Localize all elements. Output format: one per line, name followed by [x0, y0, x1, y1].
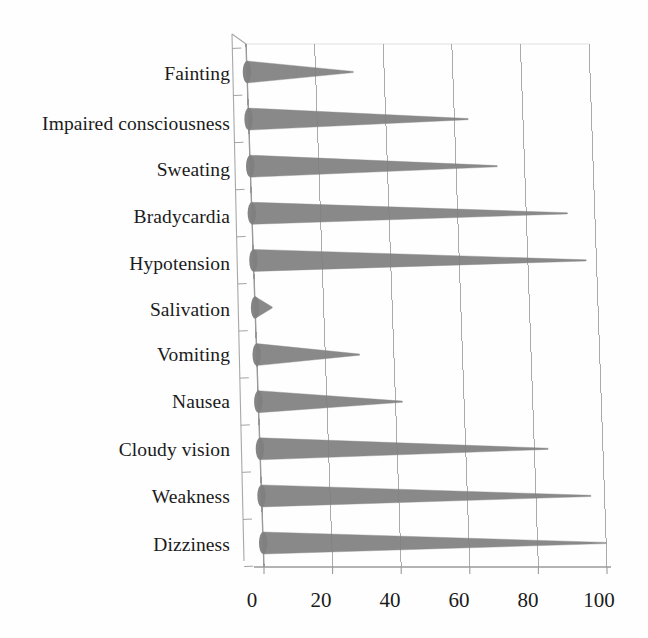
- category-axis-labels: Fainting Impaired consciousness Sweating…: [0, 0, 238, 638]
- xtick-label-100: 100: [583, 590, 615, 611]
- cone-bar-body: [262, 485, 591, 507]
- cone-bar-body: [249, 108, 469, 130]
- cone-bar: [248, 202, 568, 224]
- xtick-label-60: 60: [449, 590, 470, 611]
- cone-bar: [257, 485, 590, 507]
- category-label-hypotension: Hypotension: [129, 254, 230, 274]
- cone-bar-base-cap: [251, 297, 259, 319]
- axis-ticks: [232, 48, 607, 574]
- category-label-weakness: Weakness: [152, 487, 230, 507]
- cone-bar-chart: Fainting Impaired consciousness Sweating…: [0, 0, 648, 638]
- cone-bar-body: [252, 202, 568, 224]
- category-label-cloudy-vision: Cloudy vision: [119, 440, 230, 460]
- cone-bar-base-cap: [246, 155, 254, 177]
- cone-bar-base-cap: [252, 344, 260, 366]
- cone-bar: [254, 391, 402, 413]
- xtick-label-40: 40: [380, 590, 401, 611]
- category-label-dizziness: Dizziness: [153, 535, 230, 555]
- cone-bar-body: [260, 438, 548, 460]
- gridline-20: [315, 44, 333, 567]
- category-label-salivation: Salivation: [150, 300, 230, 320]
- category-label-impaired-consciousness: Impaired consciousness: [42, 114, 230, 134]
- cone-bar: [252, 344, 359, 366]
- cone-bar-base-cap: [257, 485, 265, 507]
- cone-bar-base-cap: [249, 249, 257, 271]
- axis-lines: [232, 34, 611, 567]
- gridline-60: [452, 44, 470, 567]
- cone-bar-base-cap: [243, 61, 251, 83]
- cone-bar: [243, 61, 354, 83]
- category-label-fainting: Fainting: [164, 64, 230, 84]
- category-label-sweating: Sweating: [157, 160, 230, 180]
- cone-bar-body: [257, 344, 360, 366]
- cone-bar-body: [255, 297, 272, 319]
- gridline-40: [383, 44, 401, 567]
- gridline-100: [589, 44, 607, 567]
- category-label-vomiting: Vomiting: [157, 345, 230, 365]
- cone-bar: [259, 532, 606, 554]
- cone-bar-base-cap: [254, 391, 262, 413]
- xtick-label-80: 80: [518, 590, 539, 611]
- cone-bar-base-cap: [256, 438, 264, 460]
- cone-bar: [244, 108, 468, 130]
- category-label-bradycardia: Bradycardia: [134, 207, 230, 227]
- cone-bar-base-cap: [248, 202, 256, 224]
- gridline-80: [520, 44, 538, 567]
- cone-bar-body: [258, 391, 402, 413]
- xtick-label-0: 0: [247, 590, 258, 611]
- bar-series: [243, 61, 606, 554]
- cone-bar-body: [253, 249, 586, 271]
- category-label-nausea: Nausea: [172, 392, 230, 412]
- value-axis-labels: 0 20 40 60 80 100: [0, 590, 648, 630]
- cone-bar: [246, 155, 497, 177]
- gridlines: [246, 44, 607, 567]
- y-axis-line: [246, 44, 264, 567]
- cone-bar: [249, 249, 586, 271]
- cone-bar-body: [247, 61, 353, 83]
- gridline-0: [246, 44, 264, 567]
- cone-bar-base-cap: [244, 108, 252, 130]
- xtick-label-20: 20: [311, 590, 332, 611]
- cone-bar-base-cap: [259, 532, 267, 554]
- cone-bar: [256, 438, 548, 460]
- cone-bar: [251, 297, 272, 319]
- cone-bar-body: [263, 532, 606, 554]
- cone-bar-body: [250, 155, 497, 177]
